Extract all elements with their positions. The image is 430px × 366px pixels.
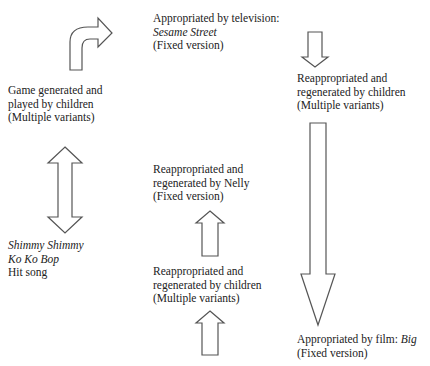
node-children-reappropriated-1: Reappropriated and regenerated by childr… <box>297 72 406 113</box>
node-line: played by children <box>8 98 103 112</box>
node-line: regenerated by Nelly <box>153 177 249 191</box>
node-line: (Multiple variants) <box>297 99 406 113</box>
node-nelly: Reappropriated and regenerated by Nelly … <box>153 163 249 204</box>
node-line: Reappropriated and <box>297 72 406 86</box>
curved-arrow-icon <box>70 18 112 70</box>
node-line: Ko Ko Bop <box>8 253 84 267</box>
node-hit-song: Shimmy Shimmy Ko Ko Bop Hit song <box>8 239 84 280</box>
node-film: Appropriated by film: Big (Fixed version… <box>297 333 417 360</box>
node-children-reappropriated-2: Reappropriated and regenerated by childr… <box>153 265 262 306</box>
film-prefix: Appropriated by film: <box>297 333 401 345</box>
double-arrow-icon <box>48 147 82 233</box>
node-line: Reappropriated and <box>153 163 249 177</box>
long-down-arrow-icon <box>301 123 335 325</box>
node-line: regenerated by children <box>153 279 262 293</box>
node-line: Game generated and <box>8 84 103 98</box>
node-line: (Fixed version) <box>153 190 249 204</box>
up-arrow-icon <box>196 311 224 355</box>
film-title: Big <box>401 333 417 345</box>
node-television: Appropriated by television: Sesame Stree… <box>153 12 279 53</box>
node-line: (Fixed version) <box>153 39 279 53</box>
node-line: Appropriated by film: Big <box>297 333 417 347</box>
node-line: Reappropriated and <box>153 265 262 279</box>
up-arrow-icon <box>196 211 224 256</box>
node-line: Sesame Street <box>153 26 279 40</box>
node-line: (Multiple variants) <box>8 111 103 125</box>
down-arrow-icon <box>302 32 328 67</box>
node-game: Game generated and played by children (M… <box>8 84 103 125</box>
node-line: Appropriated by television: <box>153 12 279 26</box>
node-line: Shimmy Shimmy <box>8 239 84 253</box>
node-line: (Multiple variants) <box>153 292 262 306</box>
node-line: (Fixed version) <box>297 347 417 361</box>
node-line: regenerated by children <box>297 86 406 100</box>
node-line: Hit song <box>8 266 84 280</box>
